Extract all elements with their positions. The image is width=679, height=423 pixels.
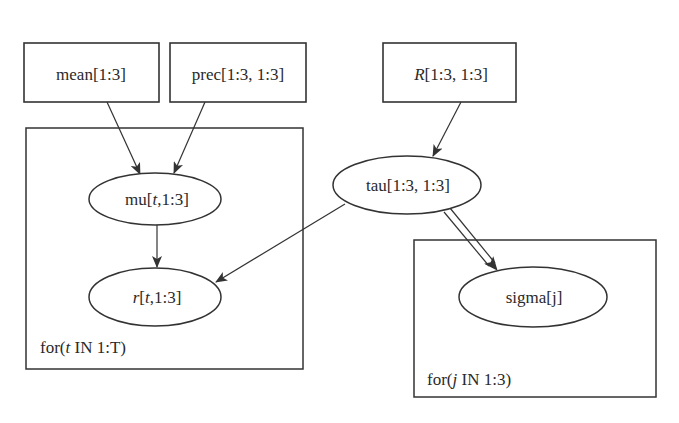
node-sigma-label: sigma[j]: [506, 288, 563, 307]
plate-t-border: [26, 128, 303, 369]
plate-j-label: for(j IN 1:3): [427, 370, 511, 389]
node-mean[interactable]: mean[1:3]: [24, 43, 159, 102]
node-R-label: R[1:3, 1:3]: [413, 65, 488, 84]
node-sigma[interactable]: sigma[j]: [459, 267, 607, 327]
plate-t-label: for(t IN 1:T): [40, 338, 126, 357]
node-tau[interactable]: tau[1:3, 1:3]: [333, 156, 481, 214]
edge-prec-to-mu[interactable]: [174, 102, 205, 173]
edge-R-to-tau[interactable]: [433, 102, 461, 156]
edge-tau-to-sigma-line-b: [450, 208, 495, 263]
edge-tau-to-r[interactable]: [216, 204, 345, 282]
diagram-svg: for(t IN 1:T) for(j IN 1:3) mean[1:3] pr…: [0, 0, 679, 423]
node-r[interactable]: r[t,1:3]: [89, 268, 221, 326]
node-mu[interactable]: mu[t,1:3]: [89, 173, 221, 225]
node-mu-label: mu[t,1:3]: [125, 190, 189, 209]
node-prec-label: prec[1:3, 1:3]: [192, 65, 285, 84]
plate-t[interactable]: for(t IN 1:T): [26, 128, 303, 369]
edge-mean-to-mu[interactable]: [107, 102, 140, 174]
doodle-diagram: for(t IN 1:T) for(j IN 1:3) mean[1:3] pr…: [0, 0, 679, 423]
node-tau-label: tau[1:3, 1:3]: [366, 176, 450, 195]
edge-tau-to-sigma[interactable]: [444, 208, 497, 270]
node-mean-label: mean[1:3]: [56, 65, 126, 84]
edge-tau-to-sigma-line-a: [444, 212, 489, 266]
node-R[interactable]: R[1:3, 1:3]: [383, 43, 516, 102]
node-r-label: r[t,1:3]: [133, 288, 182, 307]
node-prec[interactable]: prec[1:3, 1:3]: [170, 43, 306, 102]
